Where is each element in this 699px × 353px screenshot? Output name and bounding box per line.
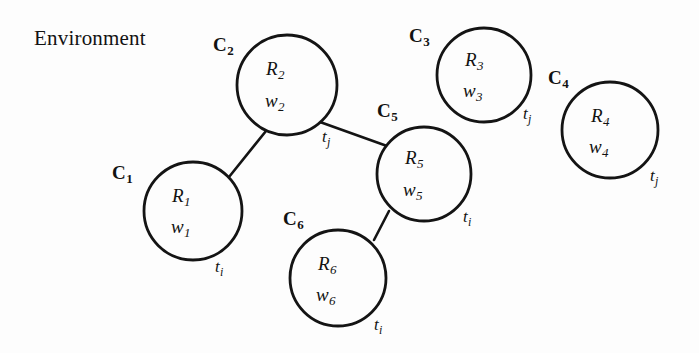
time-label-c2-sub: j (327, 135, 330, 149)
weight-label-c1-sub: 1 (184, 225, 191, 240)
weight-label-c2-text: w (265, 90, 278, 111)
time-label-c1: ti (215, 258, 223, 278)
robot-label-c5: R5 (405, 148, 423, 170)
node-circle-c4[interactable] (562, 82, 658, 178)
weight-label-c2: w2 (265, 91, 284, 113)
weight-label-c4-sub: 4 (602, 145, 609, 160)
weight-label-c6-sub: 6 (329, 293, 336, 308)
robot-label-c1-text: R (172, 185, 184, 206)
cluster-graph-diagram (0, 0, 699, 353)
robot-label-c5-sub: 5 (417, 156, 424, 171)
time-label-c4: tj (650, 167, 658, 187)
cluster-label-c1-text: C (112, 162, 126, 183)
time-label-c3-sub: j (528, 112, 531, 126)
weight-label-c5-sub: 5 (416, 188, 423, 203)
weight-label-c4: w4 (589, 137, 608, 159)
time-label-c5-sub: i (468, 215, 471, 229)
cluster-label-c3-text: C (409, 25, 423, 46)
weight-label-c3-text: w (463, 80, 476, 101)
node-circle-c2[interactable] (237, 35, 337, 135)
edge-c1-c2 (229, 131, 266, 177)
node-circle-c1[interactable] (144, 162, 242, 260)
cluster-label-c1-sub: 1 (126, 171, 133, 186)
cluster-label-c5-sub: 5 (391, 109, 398, 124)
cluster-label-c2: C2 (213, 35, 234, 57)
robot-label-c6-sub: 6 (330, 262, 337, 277)
robot-label-c6: R6 (318, 254, 336, 276)
node-circle-c3[interactable] (437, 28, 531, 122)
robot-label-c5-text: R (405, 147, 417, 168)
weight-label-c1-text: w (171, 216, 184, 237)
weight-label-c3-sub: 3 (476, 89, 483, 104)
figure-canvas: Environment C1 R1 w1 ti C2 R2 w2 tj C3 R… (0, 0, 699, 353)
robot-label-c3-text: R (465, 49, 477, 70)
cluster-label-c6-sub: 6 (297, 217, 304, 232)
time-label-c6-sub: i (379, 323, 382, 337)
cluster-label-c6: C6 (283, 209, 304, 231)
cluster-label-c6-text: C (283, 208, 297, 229)
cluster-label-c2-sub: 2 (227, 43, 234, 58)
cluster-label-c5-text: C (377, 100, 391, 121)
edge-group (229, 122, 389, 240)
robot-label-c3-sub: 3 (477, 58, 484, 73)
time-label-c6: ti (374, 316, 382, 336)
cluster-label-c5: C5 (377, 101, 398, 123)
time-label-c1-sub: i (220, 265, 223, 279)
weight-label-c6: w6 (316, 285, 335, 307)
cluster-label-c3: C3 (409, 26, 430, 48)
figure-caption: Environment (34, 28, 146, 49)
cluster-label-c1: C1 (112, 163, 133, 185)
weight-label-c3: w3 (463, 81, 482, 103)
time-label-c3: tj (523, 105, 531, 125)
time-label-c4-sub: j (655, 174, 658, 188)
robot-label-c4-sub: 4 (603, 114, 610, 129)
robot-label-c1-sub: 1 (184, 194, 191, 209)
cluster-label-c4: C4 (548, 68, 569, 90)
robot-label-c2-sub: 2 (278, 67, 285, 82)
node-circle-c5[interactable] (377, 127, 471, 221)
cluster-label-c4-text: C (548, 67, 562, 88)
cluster-label-c4-sub: 4 (562, 76, 569, 91)
robot-label-c2: R2 (266, 59, 284, 81)
weight-label-c1: w1 (171, 217, 190, 239)
cluster-label-c3-sub: 3 (423, 34, 430, 49)
robot-label-c6-text: R (318, 253, 330, 274)
cluster-label-c2-text: C (213, 34, 227, 55)
node-circle-group (144, 28, 658, 326)
robot-label-c1: R1 (172, 186, 190, 208)
weight-label-c4-text: w (589, 136, 602, 157)
robot-label-c4: R4 (591, 106, 609, 128)
robot-label-c3: R3 (465, 50, 483, 72)
time-label-c2: tj (322, 128, 330, 148)
node-circle-c6[interactable] (290, 230, 386, 326)
time-label-c5: ti (463, 208, 471, 228)
robot-label-c2-text: R (266, 58, 278, 79)
robot-label-c4-text: R (591, 105, 603, 126)
edge-c5-c6 (374, 211, 389, 240)
weight-label-c5: w5 (403, 180, 422, 202)
weight-label-c5-text: w (403, 179, 416, 200)
weight-label-c2-sub: 2 (278, 99, 285, 114)
weight-label-c6-text: w (316, 284, 329, 305)
